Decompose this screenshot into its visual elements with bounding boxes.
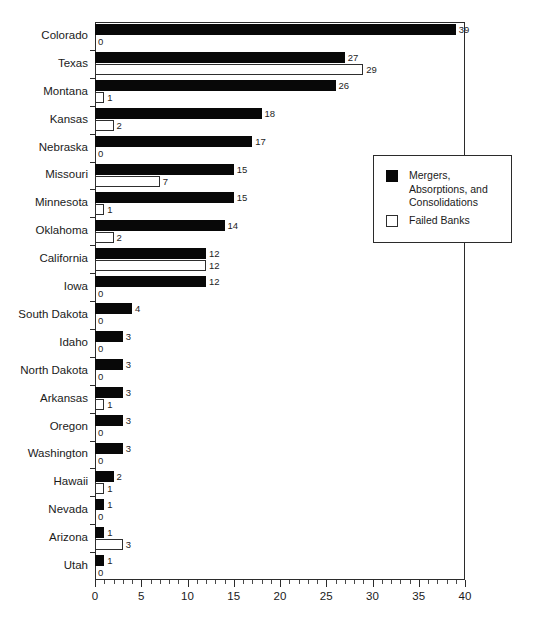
bar-value-mergers: 27 [348, 52, 359, 63]
bar-mergers [95, 192, 234, 203]
x-axis-tick-label: 25 [306, 589, 346, 603]
x-axis-tick-minor [123, 580, 124, 584]
bar-value-mergers: 3 [126, 443, 131, 454]
bar-value-mergers: 12 [209, 276, 220, 287]
y-axis-label: Nevada [48, 503, 88, 516]
y-axis-label: Oregon [50, 420, 88, 433]
bar-mergers [95, 80, 336, 91]
legend-label: Mergers, Absorptions, and Consolidations [409, 169, 488, 210]
bar-failed-banks [95, 64, 363, 75]
y-axis-label: Minnesota [35, 196, 88, 209]
bar-value-mergers: 15 [237, 164, 248, 175]
x-axis-tick-minor [271, 580, 272, 584]
x-axis-tick-label: 15 [214, 589, 254, 603]
x-axis-tick-minor [345, 580, 346, 584]
bar-mergers [95, 52, 345, 63]
x-axis-tick-label: 20 [260, 589, 300, 603]
bar-mergers [95, 136, 252, 147]
y-axis-label: Oklahoma [36, 224, 88, 237]
legend-entry: Failed Banks [386, 214, 470, 228]
bar-failed-banks [95, 92, 104, 103]
bar-value-failed-banks: 1 [107, 92, 112, 103]
bar-group: 10 [95, 555, 465, 578]
bar-value-failed-banks: 2 [117, 120, 122, 131]
x-axis-tick-minor [428, 580, 429, 584]
y-axis-label: Nebraska [39, 141, 88, 154]
y-axis-label: California [39, 252, 88, 265]
bar-value-mergers: 1 [107, 527, 112, 538]
x-axis-tick-minor [363, 580, 364, 584]
bar-group: 261 [95, 80, 465, 103]
x-axis-tick-major [419, 580, 420, 587]
x-axis-tick-minor [132, 580, 133, 584]
bar-value-failed-banks: 2 [117, 232, 122, 243]
bar-group: 13 [95, 527, 465, 550]
bar-group: 31 [95, 387, 465, 410]
bar-mergers [95, 499, 104, 510]
x-axis-tick-major [280, 580, 281, 587]
bar-group: 2729 [95, 52, 465, 75]
y-axis-label: Washington [28, 447, 88, 460]
bar-failed-banks [95, 399, 104, 410]
bar-group: 40 [95, 303, 465, 326]
bar-group: 1212 [95, 248, 465, 271]
chart-legend: Mergers, Absorptions, and Consolidations… [373, 155, 512, 243]
x-axis-tick-minor [151, 580, 152, 584]
y-axis-label: Colorado [41, 29, 88, 42]
x-axis: 0510152025303540 [95, 580, 467, 620]
bar-value-mergers: 15 [237, 192, 248, 203]
y-axis-label: Iowa [64, 280, 88, 293]
bar-group: 120 [95, 276, 465, 299]
y-axis-label: Missouri [45, 168, 88, 181]
bar-value-failed-banks: 0 [98, 455, 103, 466]
bar-failed-banks [95, 204, 104, 215]
bar-mergers [95, 359, 123, 370]
bar-value-failed-banks: 0 [98, 343, 103, 354]
bar-value-mergers: 1 [107, 499, 112, 510]
x-axis-tick-minor [317, 580, 318, 584]
bar-value-mergers: 3 [126, 415, 131, 426]
x-axis-tick-minor [243, 580, 244, 584]
x-axis-tick-minor [410, 580, 411, 584]
x-axis-tick-minor [104, 580, 105, 584]
y-axis: ColoradoTexasMontanaKansasNebraskaMissou… [0, 22, 95, 580]
bar-value-failed-banks: 1 [107, 483, 112, 494]
bar-mergers [95, 471, 114, 482]
y-axis-label: Hawaii [53, 475, 88, 488]
bar-mergers [95, 555, 104, 566]
x-axis-tick-minor [169, 580, 170, 584]
x-axis-tick-label: 0 [75, 589, 115, 603]
x-axis-tick-major [95, 580, 96, 587]
legend-swatch-filled-icon [386, 170, 398, 182]
x-axis-tick-major [141, 580, 142, 587]
legend-label: Failed Banks [409, 214, 470, 228]
bar-mergers [95, 443, 123, 454]
x-axis-tick-label: 5 [121, 589, 161, 603]
x-axis-tick-major [188, 580, 189, 587]
bar-failed-banks [95, 176, 160, 187]
legend-swatch-hollow-icon [386, 215, 398, 227]
y-axis-label: Montana [43, 85, 88, 98]
x-axis-tick-major [373, 580, 374, 587]
x-axis-tick-minor [197, 580, 198, 584]
bar-mergers [95, 164, 234, 175]
bar-mergers [95, 387, 123, 398]
x-axis-tick-minor [178, 580, 179, 584]
bar-value-mergers: 39 [459, 24, 470, 35]
bar-chart: ColoradoTexasMontanaKansasNebraskaMissou… [0, 0, 541, 635]
x-axis-tick-major [465, 580, 466, 587]
x-axis-tick-minor [160, 580, 161, 584]
bars-layer: 3902729261182170157151142121212040303031… [95, 22, 465, 580]
x-axis-tick-minor [391, 580, 392, 584]
bar-value-failed-banks: 7 [163, 176, 168, 187]
bar-mergers [95, 331, 123, 342]
bar-group: 30 [95, 331, 465, 354]
bar-value-mergers: 3 [126, 331, 131, 342]
bar-mergers [95, 527, 104, 538]
bar-value-failed-banks: 0 [98, 36, 103, 47]
x-axis-tick-minor [382, 580, 383, 584]
x-axis-tick-minor [299, 580, 300, 584]
bar-value-failed-banks: 0 [98, 148, 103, 159]
bar-mergers [95, 303, 132, 314]
bar-value-failed-banks: 0 [98, 288, 103, 299]
